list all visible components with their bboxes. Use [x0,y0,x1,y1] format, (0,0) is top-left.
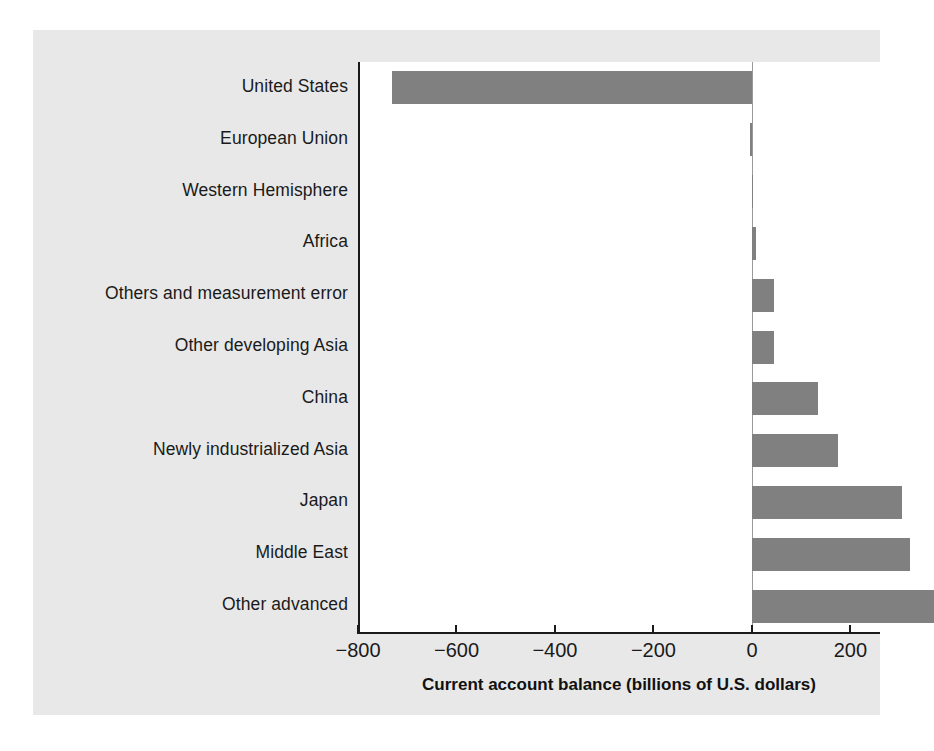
category-label: Other developing Asia [175,337,348,355]
x-axis-tick-label: 200 [834,640,867,660]
bar [392,71,751,104]
category-label: Middle East [255,544,348,562]
value-axis-line [358,632,880,634]
x-axis-title: Current account balance (billions of U.S… [358,676,880,693]
x-axis-tick-mark [751,625,753,634]
x-axis-tick-label: −600 [434,640,479,660]
bar [752,227,756,260]
x-axis-tick-label: −400 [532,640,577,660]
category-label: Newly industrialized Asia [153,441,348,459]
category-label: Others and measurement error [105,285,348,303]
bar [752,434,838,467]
bar [752,590,934,623]
bar [752,486,902,519]
bar [752,279,774,312]
category-label: Japan [300,492,348,510]
x-axis-tick-label: −800 [335,640,380,660]
category-label: Other advanced [222,596,348,614]
x-axis-tick-mark [554,625,556,634]
x-axis-tick-label: −200 [631,640,676,660]
bar [752,538,910,571]
figure-panel: United StatesEuropean UnionWestern Hemis… [33,30,880,715]
category-label: Africa [303,233,348,251]
category-label: European Union [220,130,348,148]
category-axis-line [358,62,360,634]
bar [752,175,753,208]
category-label: Western Hemisphere [182,182,348,200]
x-axis-tick-mark [357,625,359,634]
category-label: China [302,389,348,407]
bar [752,331,774,364]
bar-chart: United StatesEuropean UnionWestern Hemis… [33,30,880,715]
x-axis-tick-label: 0 [746,640,757,660]
x-axis-tick-mark [455,625,457,634]
bar [752,382,818,415]
x-axis-tick-mark [849,625,851,634]
x-axis-tick-mark [652,625,654,634]
bar [750,123,752,156]
category-label: United States [242,78,348,96]
